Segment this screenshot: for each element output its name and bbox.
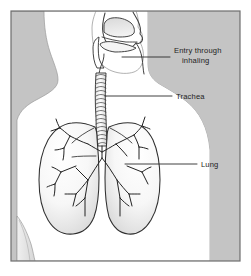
label-lung: Lung <box>201 160 219 169</box>
label-entry-through-inhaling-line1: Entry through <box>174 46 222 55</box>
label-entry-through-inhaling-line2: inhaling <box>182 56 209 65</box>
respiratory-system-illustration: Entry through inhaling Trachea Lung <box>0 0 251 276</box>
diagram-root: Entry through inhaling Trachea Lung <box>0 0 251 276</box>
illustration-plate: Entry through inhaling Trachea Lung <box>11 11 240 261</box>
left-lung <box>105 123 160 234</box>
right-lung <box>39 123 99 234</box>
label-trachea: Trachea <box>176 92 205 101</box>
